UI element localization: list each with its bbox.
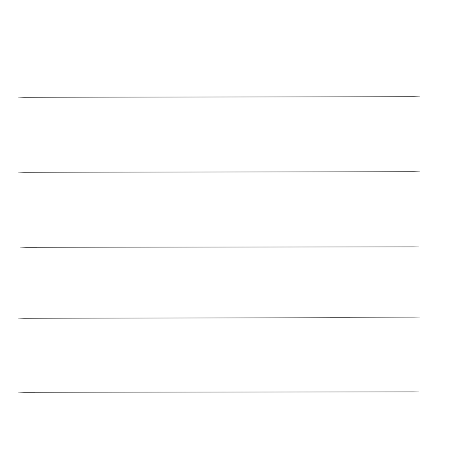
horizontal-rule-1 (18, 96, 420, 98)
horizontal-rule-4 (18, 317, 420, 319)
horizontal-rule-2 (18, 171, 420, 173)
horizontal-rule-5 (18, 391, 419, 393)
horizontal-rule-3 (20, 246, 419, 248)
ruled-sheet-canvas (0, 0, 450, 459)
